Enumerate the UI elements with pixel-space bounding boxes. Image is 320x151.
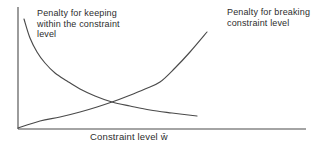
x-axis-label: Constraint level w̄ xyxy=(90,132,168,143)
label-breaking-penalty: Penalty for breaking constraint level xyxy=(227,7,310,28)
label-keeping-line2: within the constraint xyxy=(37,19,120,30)
figure-canvas: Penalty for keeping within the constrain… xyxy=(0,0,320,151)
label-breaking-line1: Penalty for breaking xyxy=(227,7,310,18)
label-keeping-line1: Penalty for keeping xyxy=(37,8,120,19)
label-keeping-line3: level xyxy=(37,29,120,40)
label-keeping-penalty: Penalty for keeping within the constrain… xyxy=(37,8,120,40)
label-breaking-line2: constraint level xyxy=(227,18,310,29)
